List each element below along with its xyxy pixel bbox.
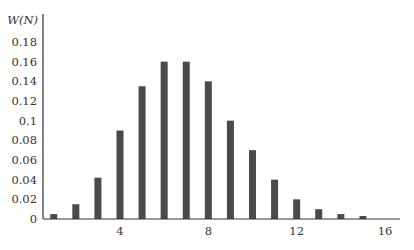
- y-tick-label: 0.08: [11, 133, 37, 147]
- bar-n-13: [315, 209, 322, 219]
- x-tick-label: 8: [205, 224, 212, 238]
- bar-n-5: [139, 86, 146, 219]
- bar-series: [50, 62, 366, 219]
- y-tick-label: 0.04: [11, 173, 37, 187]
- bar-n-8: [205, 81, 212, 219]
- y-tick-label: 0.06: [11, 153, 37, 167]
- bar-n-10: [249, 150, 256, 219]
- y-tick-label: 0.1: [19, 114, 37, 128]
- y-tick-label: 0.12: [11, 94, 37, 108]
- x-tick-label: 16: [378, 224, 393, 238]
- bar-n-6: [161, 62, 168, 219]
- y-tick-label: 0.14: [11, 74, 37, 88]
- bar-n-12: [293, 199, 300, 219]
- y-tick-label: 0: [30, 212, 37, 226]
- bar-n-1: [50, 214, 57, 219]
- y-tick-label: 0.02: [11, 192, 37, 206]
- bar-chart: 00.020.040.060.080.10.120.140.160.18 481…: [0, 0, 414, 250]
- bar-n-9: [227, 121, 234, 219]
- bar-n-4: [117, 131, 124, 220]
- y-tick-label: 0.16: [11, 55, 37, 69]
- bar-n-14: [337, 214, 344, 219]
- bar-n-3: [94, 178, 101, 219]
- x-tick-label: 12: [289, 224, 304, 238]
- y-axis-tick-labels: 00.020.040.060.080.10.120.140.160.18: [11, 35, 37, 226]
- bar-n-7: [183, 62, 190, 219]
- y-tick-label: 0.18: [11, 35, 37, 49]
- bar-n-11: [271, 180, 278, 219]
- bar-n-2: [72, 204, 79, 219]
- y-axis-title: W(N): [7, 13, 38, 27]
- x-tick-label: 4: [116, 224, 123, 238]
- x-axis-tick-labels: 481216: [116, 224, 392, 238]
